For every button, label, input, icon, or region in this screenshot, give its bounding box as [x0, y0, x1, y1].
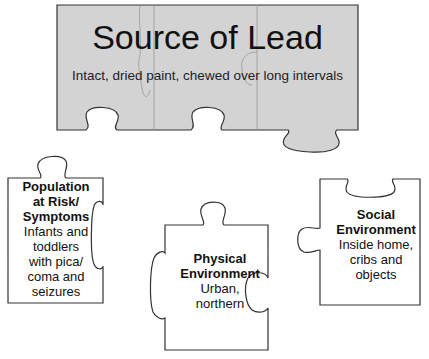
- physical-heading-line: Environment: [168, 267, 272, 282]
- population-piece-text: Population at Risk/ Symptoms Infants and…: [10, 180, 102, 300]
- physical-piece-text: Physical Environment Urban, northern: [168, 252, 272, 312]
- population-body-line: seizures: [10, 285, 102, 300]
- physical-body-line: Urban,: [168, 282, 272, 297]
- social-body-line: objects: [326, 268, 426, 283]
- social-heading-line: Social: [326, 208, 426, 223]
- population-heading-line: Population: [10, 180, 102, 195]
- population-body-line: Infants and: [10, 225, 102, 240]
- source-title: Source of Lead: [57, 18, 358, 57]
- physical-body-line: northern: [168, 297, 272, 312]
- social-body-line: Inside home,: [326, 238, 426, 253]
- population-body-line: coma and: [10, 270, 102, 285]
- population-heading-line: at Risk/: [10, 195, 102, 210]
- population-body-line: toddlers: [10, 240, 102, 255]
- population-body-line: with pica/: [10, 255, 102, 270]
- source-subtitle: Intact, dried paint, chewed over long in…: [57, 68, 358, 84]
- social-body-line: cribs and: [326, 253, 426, 268]
- physical-heading-line: Physical: [168, 252, 272, 267]
- social-heading-line: Environment: [326, 223, 426, 238]
- social-piece-text: Social Environment Inside home, cribs an…: [326, 208, 426, 283]
- population-heading-line: Symptoms: [10, 210, 102, 225]
